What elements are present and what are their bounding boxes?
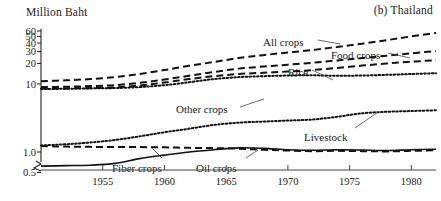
x-tick-marks xyxy=(103,165,412,170)
series-lines xyxy=(41,33,436,166)
series-line-food-crops xyxy=(41,51,436,87)
leader-line xyxy=(246,150,258,158)
series-line-livestock xyxy=(41,110,436,145)
chart-container: Million Baht (b) Thailand 6050403020101.… xyxy=(0,0,441,201)
plot-area xyxy=(0,0,441,201)
y-tick-marks xyxy=(37,31,41,172)
axis-break-marker xyxy=(34,161,41,171)
leader-line xyxy=(240,99,264,107)
series-line-fiber-crops xyxy=(41,146,436,151)
leader-line xyxy=(318,40,340,44)
